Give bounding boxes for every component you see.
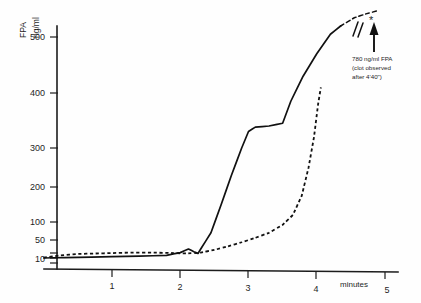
up-arrow-icon [370, 22, 379, 52]
x-axis-line [44, 269, 398, 272]
y-tick-label-400: 400 [30, 88, 45, 98]
chart-figure: 500 400 300 200 100 50 10 FPA ng/ml 1 2 … [0, 0, 421, 303]
break-mark-icon [353, 22, 363, 37]
x-tick-label-4: 4 [313, 284, 318, 294]
x-tick-label-5: 5 [384, 285, 389, 295]
y-tick-label-50: 50 [35, 235, 45, 245]
clot-annotation-line-1: 780 ng/ml FPA [352, 55, 393, 62]
x-axis-title: minutes [340, 280, 368, 289]
x-tick-label-3: 3 [245, 283, 250, 293]
y-tick-label-200: 200 [30, 182, 45, 192]
y-tick-label-100: 100 [30, 217, 45, 227]
clot-annotation-line-2: (clot observed [352, 64, 391, 71]
x-tick-label-2: 2 [177, 282, 182, 292]
x-tick-label-1: 1 [109, 281, 114, 291]
y-axis-title-units: ng/ml [31, 17, 41, 38]
series-dashed-curve [44, 87, 321, 257]
clot-annotation-line-3: after 4'40") [352, 73, 382, 80]
chart-svg: 500 400 300 200 100 50 10 FPA ng/ml 1 2 … [0, 0, 421, 303]
y-tick-label-300: 300 [30, 143, 45, 153]
y-axis-title-fpa: FPA [18, 22, 28, 38]
series-solid-curve [44, 26, 341, 258]
y-tick-label-10: 10 [35, 254, 45, 264]
